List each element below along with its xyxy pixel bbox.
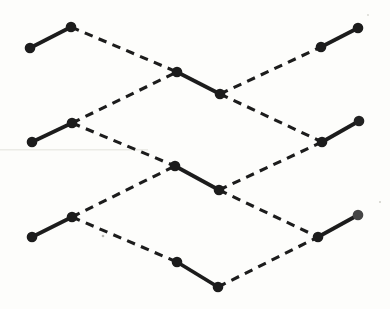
lattice-node-dimer-b-left <box>172 67 183 78</box>
scan-streak-artifact <box>0 149 148 151</box>
lattice-node-dimer-a-right <box>66 22 77 33</box>
lattice-node-dimer-a-left <box>25 43 36 54</box>
lattice-node-dimer-f-left <box>317 137 328 148</box>
lattice-node-dimer-g-right <box>67 212 78 223</box>
lattice-node-dimer-c-right <box>353 23 364 34</box>
lattice-node-dimer-e-left <box>170 161 181 172</box>
scan-speck-artifact <box>367 14 369 16</box>
lattice-node-dimer-b-right <box>215 89 226 100</box>
lattice-node-dimer-h-right <box>213 282 224 293</box>
lattice-node-dimer-e-right <box>214 185 225 196</box>
scan-speck-artifact <box>379 201 381 203</box>
lattice-node-dimer-d-left <box>27 137 38 148</box>
lattice-node-dimer-d-right <box>67 118 78 129</box>
lattice-node-dimer-c-left <box>316 42 327 53</box>
dimer-lattice-figure <box>0 0 390 309</box>
scan-speck-artifact <box>102 235 105 238</box>
lattice-node-dimer-h-left <box>172 257 183 268</box>
lattice-node-dimer-f-right <box>354 116 365 127</box>
lattice-node-dimer-i-left <box>313 232 324 243</box>
lattice-canvas <box>0 0 390 309</box>
lattice-node-dimer-i-right <box>353 210 364 221</box>
figure-background <box>0 0 390 309</box>
lattice-node-dimer-g-left <box>27 232 38 243</box>
